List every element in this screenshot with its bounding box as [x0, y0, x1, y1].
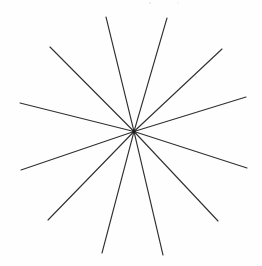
- starburst-ray: [134, 97, 246, 132]
- center-knot: [132, 130, 135, 133]
- paper-speck: [177, 2, 179, 4]
- starburst-ray: [50, 47, 134, 132]
- starburst-ray: [20, 103, 134, 132]
- starburst-ray: [134, 132, 163, 256]
- starburst-ray: [102, 132, 134, 254]
- starburst-ray: [106, 17, 134, 132]
- starburst-ray: [48, 132, 134, 221]
- figure-canvas: [0, 0, 262, 266]
- starburst-ray: [134, 49, 222, 132]
- starburst-ray: [21, 132, 134, 171]
- starburst-ray: [134, 18, 167, 132]
- paper-speck: [195, 76, 197, 78]
- paper-speck: [149, 2, 151, 4]
- starburst-figure: [0, 0, 262, 266]
